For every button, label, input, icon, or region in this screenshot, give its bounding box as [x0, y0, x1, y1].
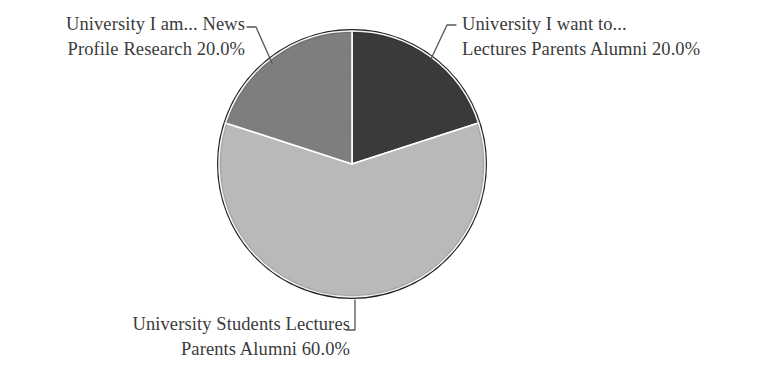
leader-line-university-i-want-to — [431, 25, 456, 59]
pie-label-line-2: Lectures Parents Alumni 20.0% — [462, 37, 752, 62]
pie-label-line-2: Parents Alumni 60.0% — [60, 337, 350, 362]
pie-label-university-students-lectures: University Students Lectures Parents Alu… — [60, 312, 350, 362]
pie-label-university-i-am-news: University I am... News Profile Research… — [20, 12, 245, 62]
pie-label-line-1: University I am... News — [20, 12, 245, 37]
pie-label-line-1: University I want to... — [462, 12, 752, 37]
pie-label-university-i-want-to: University I want to... Lectures Parents… — [462, 12, 752, 62]
pie-label-line-2: Profile Research 20.0% — [20, 37, 245, 62]
pie-label-line-1: University Students Lectures — [60, 312, 350, 337]
pie-chart-figure: University I am... News Profile Research… — [0, 0, 763, 388]
leader-line-university-i-am-news — [247, 27, 272, 63]
